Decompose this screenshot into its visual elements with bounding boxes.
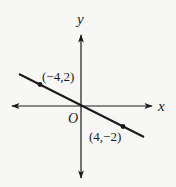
origin-label: O bbox=[68, 111, 78, 126]
x-axis-label: x bbox=[157, 98, 165, 114]
point-label-4-neg2: (4,−2) bbox=[89, 129, 121, 144]
point-label-neg4-2: (−4,2) bbox=[42, 69, 74, 84]
point-4-neg2 bbox=[121, 124, 126, 129]
y-axis-label: y bbox=[75, 11, 84, 27]
coordinate-plane: y x O (−4,2) (4,−2) bbox=[0, 0, 176, 187]
